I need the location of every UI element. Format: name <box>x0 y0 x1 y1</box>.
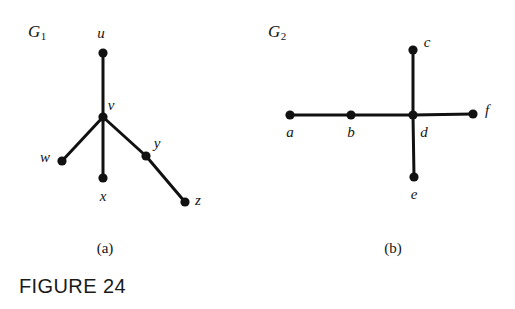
vertex-label-w: w <box>40 149 50 166</box>
graph-vertex-y <box>141 151 150 160</box>
graph-vertex-c <box>408 45 417 54</box>
panel-caption-panel-a: (a) <box>97 240 114 257</box>
vertex-label-d: d <box>420 124 428 141</box>
figure-caption: FIGURE 24 <box>19 275 126 298</box>
vertex-label-y: y <box>154 135 161 152</box>
graph-vertex-v <box>98 112 107 121</box>
graph-name-base: G <box>268 22 280 41</box>
graph-name-base: G <box>28 22 40 41</box>
graph-vertex-b <box>346 110 355 119</box>
vertex-label-b: b <box>347 124 355 141</box>
graph-edge-d-e <box>413 115 414 177</box>
graph-name-label-panel-a: G1 <box>28 22 46 42</box>
graph-vertex-z <box>180 197 189 206</box>
vertex-label-z: z <box>195 192 201 209</box>
figure-container: uvwxyzG1(a)abcdefG2(b) FIGURE 24 <box>0 0 515 309</box>
graph-edge-d-f <box>413 114 473 115</box>
vertex-label-c: c <box>424 34 431 51</box>
panel-caption-panel-b: (b) <box>384 240 402 257</box>
graph-name-label-panel-b: G2 <box>268 22 286 42</box>
graph-edge-v-y <box>103 117 146 156</box>
vertex-label-a: a <box>286 124 294 141</box>
graph-vertex-a <box>285 110 294 119</box>
vertex-label-e: e <box>411 186 418 203</box>
vertex-label-v: v <box>108 97 115 114</box>
graph-drawing-canvas <box>0 0 515 309</box>
graph-name-subscript: 1 <box>40 30 46 42</box>
vertex-label-f: f <box>485 102 489 119</box>
graph-vertex-u <box>98 48 107 57</box>
graph-vertex-w <box>57 156 66 165</box>
graph-vertex-d <box>408 110 417 119</box>
graph-edge-v-w <box>62 117 103 161</box>
vertex-label-x: x <box>100 188 107 205</box>
graph-vertex-x <box>98 173 107 182</box>
graph-vertex-e <box>409 172 418 181</box>
vertex-label-u: u <box>97 25 105 42</box>
graph-name-subscript: 2 <box>280 30 286 42</box>
graph-edge-y-z <box>146 156 185 202</box>
graph-vertex-f <box>468 109 477 118</box>
